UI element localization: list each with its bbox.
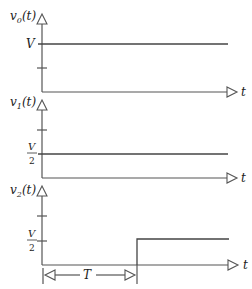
y-axis-arrow-icon bbox=[37, 14, 47, 24]
delay-dimension: T bbox=[43, 265, 137, 284]
x-label: t bbox=[241, 171, 246, 185]
y-axis-arrow-icon bbox=[37, 100, 47, 110]
delay-left-arrow-icon bbox=[45, 270, 55, 280]
x-label: t bbox=[241, 85, 246, 99]
y-axis-arrow-icon bbox=[37, 186, 47, 196]
delay-label: T bbox=[83, 268, 92, 282]
x-axis-arrow-icon bbox=[227, 87, 237, 97]
step-signal bbox=[137, 239, 229, 265]
panel-v1: v1(t) V 2 t bbox=[10, 95, 246, 185]
level-label: V bbox=[26, 37, 36, 51]
level-label-numerator: V bbox=[28, 141, 37, 152]
y-label: v1(t) bbox=[10, 95, 36, 111]
level-label-denominator: 2 bbox=[29, 243, 35, 253]
y-label: v0(t) bbox=[10, 9, 36, 25]
x-axis-arrow-icon bbox=[228, 260, 238, 270]
delay-right-arrow-icon bbox=[125, 270, 135, 280]
level-label-numerator: V bbox=[28, 228, 37, 239]
panel-v0: v0(t) V t bbox=[10, 9, 246, 99]
x-axis-arrow-icon bbox=[227, 173, 237, 183]
y-label: v2(t) bbox=[10, 183, 36, 199]
x-label: t bbox=[243, 258, 248, 272]
waveform-diagram: v0(t) V t v1(t) V 2 t v2(t) V 2 t bbox=[0, 0, 252, 289]
panel-v2: v2(t) V 2 t T bbox=[10, 183, 248, 284]
level-label-denominator: 2 bbox=[29, 156, 35, 166]
